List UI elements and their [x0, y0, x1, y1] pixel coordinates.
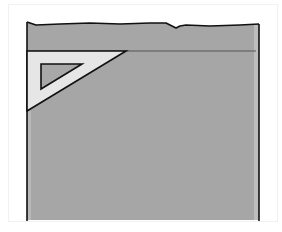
sheet-left-edge-strip — [28, 111, 31, 220]
set-square-illustration — [0, 0, 282, 232]
